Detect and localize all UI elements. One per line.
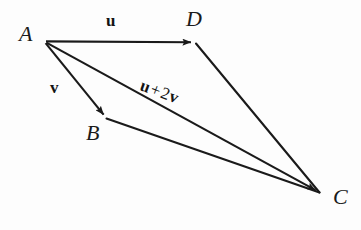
point-label-d: D (186, 8, 202, 30)
point-label-b: B (86, 122, 99, 144)
vector-diagram-canvas: A B C D u v u+2v (0, 0, 361, 230)
point-label-a: A (19, 23, 32, 45)
vector-diagram-svg (0, 0, 361, 230)
vector-label-u: u (106, 12, 115, 29)
vector-u-plus-2v-line (46, 43, 315, 191)
point-label-c: C (333, 186, 348, 208)
vector-u-line (46, 41, 191, 42)
vector-label-v: v (50, 79, 59, 96)
